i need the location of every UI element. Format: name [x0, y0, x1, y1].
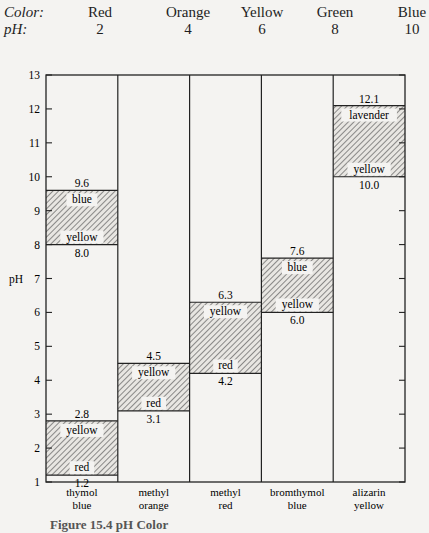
band-high-color-label: blue	[72, 193, 92, 205]
y-tick-label: 10	[29, 171, 41, 183]
y-tick-label: 1	[34, 476, 40, 488]
figure-caption: Figure 15.4 pH Color	[50, 517, 168, 533]
band-low-color-label: red	[146, 397, 161, 409]
y-tick-label: 8	[34, 239, 40, 251]
y-tick-label: 3	[34, 408, 40, 420]
category-label: blue	[72, 499, 91, 511]
category-label: alizarin	[353, 486, 386, 498]
category-label: red	[218, 499, 233, 511]
y-tick-label: 5	[34, 340, 40, 352]
band-high-value: 7.6	[290, 245, 305, 257]
band-low-color-label: red	[75, 461, 90, 473]
category-label: thymol	[66, 486, 97, 498]
y-tick-label: 2	[34, 442, 40, 454]
band-high-value: 4.5	[147, 350, 162, 362]
band-high-color-label: lavender	[349, 109, 389, 121]
band-low-value: 4.2	[218, 375, 233, 387]
category-label: methyl	[210, 486, 241, 498]
band-high-value: 6.3	[218, 289, 233, 301]
y-tick-label: 13	[29, 69, 41, 81]
y-tick-label: 9	[34, 205, 40, 217]
band-low-color-label: red	[218, 359, 233, 371]
band-high-color-label: yellow	[138, 366, 170, 379]
band-high-color-label: yellow	[66, 424, 98, 437]
band-low-color-label: yellow	[66, 231, 98, 244]
band-high-color-label: yellow	[210, 305, 242, 318]
band-low-value: 6.0	[290, 314, 305, 326]
category-label: orange	[139, 499, 169, 511]
band-low-value: 10.0	[359, 179, 379, 191]
band-high-value: 2.8	[75, 408, 90, 420]
band-high-color-label: blue	[287, 261, 307, 273]
y-axis-label: pH	[9, 273, 23, 286]
band-high-value: 9.6	[75, 177, 90, 189]
category-label: yellow	[354, 499, 384, 511]
band-high-value: 12.1	[359, 93, 379, 105]
band-low-color-label: yellow	[282, 298, 314, 311]
category-label: blue	[288, 499, 307, 511]
y-tick-label: 12	[29, 103, 41, 115]
y-tick-label: 6	[34, 306, 40, 318]
band-low-value: 3.1	[147, 413, 162, 425]
band-low-color-label: yellow	[353, 163, 385, 176]
y-tick-label: 7	[34, 273, 40, 285]
band-low-value: 8.0	[75, 247, 90, 259]
y-tick-label: 4	[34, 374, 40, 386]
category-label: bromthymol	[270, 486, 324, 498]
y-tick-label: 11	[29, 137, 40, 149]
category-label: methyl	[138, 486, 169, 498]
